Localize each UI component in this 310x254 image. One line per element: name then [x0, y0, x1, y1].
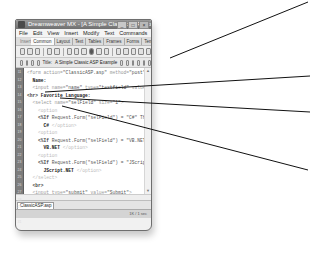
layer-icon[interactable] [54, 48, 59, 55]
line-number: 21 [16, 144, 23, 152]
scroll-down-arrow-icon[interactable]: ▼ [146, 189, 150, 193]
code-line: C# </option> [27, 122, 151, 130]
menu-modify[interactable]: Modify [83, 29, 99, 37]
app-logo-icon [18, 21, 25, 28]
code-token: "name" [66, 85, 83, 90]
menu-text[interactable]: Text [104, 29, 114, 37]
line-number: 14 [16, 92, 23, 100]
insert-tab-common[interactable]: Common [31, 38, 54, 45]
code-token: <input name= [33, 85, 66, 90]
insert-bar: Insert Common Layout Text Tables Frames … [16, 38, 151, 46]
editable-region-icon[interactable] [146, 48, 151, 55]
code-line: Name: [27, 77, 151, 85]
reference-icon[interactable] [137, 60, 140, 66]
navigation-bar-icon[interactable] [96, 48, 101, 55]
code-token: "1" [112, 100, 120, 105]
table-icon[interactable] [47, 48, 52, 55]
maximize-button[interactable]: □ [128, 21, 138, 29]
code-token: <option [38, 130, 57, 135]
insert-tab-templates[interactable]: Templates [142, 38, 151, 45]
insert-tab-frames[interactable]: Frames [104, 38, 124, 45]
code-editor[interactable]: 1112131415161718192021222324252627282930… [16, 68, 151, 194]
menu-edit[interactable]: Edit [33, 29, 42, 37]
code-token: <select name= [33, 100, 69, 105]
vertical-scrollbar[interactable]: ▲ ▼ [144, 68, 151, 194]
menu-insert[interactable]: Insert [64, 29, 78, 37]
code-line: <select name="selField" size="1"> [27, 99, 151, 107]
tag-chooser-icon[interactable] [131, 48, 136, 55]
insert-tab-text[interactable]: Text [73, 38, 86, 45]
code-token: <form action= [27, 70, 63, 75]
code-line: VB.NET </option> [27, 144, 151, 152]
code-line: </select> [27, 174, 151, 182]
code-token: Request.Form("selField") = "JScript.NET"… [52, 160, 151, 165]
line-number: 17 [16, 114, 23, 122]
design-view-icon[interactable] [31, 60, 34, 66]
code-token: method= [107, 70, 129, 75]
live-data-icon[interactable] [37, 60, 40, 66]
split-view-icon[interactable] [26, 60, 29, 66]
callout-line-title [170, 2, 308, 58]
code-token: Name: [33, 78, 47, 83]
code-token: Favorite Language: [41, 93, 91, 98]
line-number: 23 [16, 159, 23, 167]
menu-file[interactable]: File [19, 29, 28, 37]
code-token: </option> [49, 123, 77, 128]
code-token: > [129, 190, 132, 194]
scroll-up-arrow-icon[interactable]: ▲ [146, 69, 150, 73]
code-navigation-icon[interactable] [143, 60, 146, 66]
status-bar: 1K / 1 sec [16, 209, 151, 218]
close-button[interactable]: × [139, 21, 149, 29]
code-token: > [121, 100, 124, 105]
code-token: <br> [33, 183, 44, 188]
hyperlink-icon[interactable] [20, 48, 25, 55]
insert-tab-tables[interactable]: Tables [86, 38, 104, 45]
code-line: <br> [27, 182, 151, 190]
code-token: JScript.NET [44, 168, 74, 173]
code-token: "ClassicASP.asp" [63, 70, 107, 75]
line-number: 20 [16, 137, 23, 145]
line-number: 31 [16, 219, 23, 227]
title-input[interactable]: A Simple Classic ASP Example [55, 60, 117, 65]
named-anchor-icon[interactable] [35, 48, 40, 55]
line-number: 12 [16, 77, 23, 85]
document-toolbar: Title: A Simple Classic ASP Example [16, 58, 151, 68]
refresh-icon[interactable] [132, 60, 135, 66]
line-number: 15 [16, 99, 23, 107]
line-number: 28 [16, 197, 23, 205]
date-icon[interactable] [116, 48, 121, 55]
menu-view[interactable]: View [47, 29, 59, 37]
email-link-icon[interactable] [27, 48, 32, 55]
insert-bar-label: Insert [19, 38, 31, 45]
rollover-image-icon[interactable] [81, 48, 86, 55]
code-token: <%If [38, 138, 52, 143]
flash-icon[interactable] [89, 48, 94, 55]
code-token: VB.NET [44, 145, 61, 150]
menu-commands[interactable]: Commands [119, 29, 147, 37]
horizontal-rule-icon[interactable] [104, 48, 109, 55]
code-token: </option> [74, 168, 102, 173]
line-number: 18 [16, 122, 23, 130]
toolbar-separator [43, 48, 44, 56]
code-area[interactable]: <form action="ClassicASP.asp" method="po… [24, 68, 151, 194]
code-token: type= [82, 85, 99, 90]
template-icon[interactable] [138, 48, 143, 55]
view-options-icon[interactable] [148, 60, 151, 66]
code-token: size= [96, 100, 113, 105]
code-line: JScript.NET </option> [27, 167, 151, 175]
line-number: 24 [16, 167, 23, 175]
code-view-icon[interactable] [20, 60, 23, 66]
menu-bar: File Edit View Insert Modify Text Comman… [16, 29, 151, 38]
image-placeholder-icon[interactable] [74, 48, 79, 55]
insert-tab-forms[interactable]: Forms [125, 38, 143, 45]
image-icon[interactable] [67, 48, 72, 55]
code-token: <hr> [27, 93, 41, 98]
code-line: <%If Request.Form("selField") = "VB.NET"… [27, 137, 151, 145]
insert-tab-layout[interactable]: Layout [55, 38, 74, 45]
minimize-button[interactable]: _ [117, 21, 127, 29]
code-line: <option [27, 152, 151, 160]
comment-icon[interactable] [123, 48, 128, 55]
file-management-icon[interactable] [120, 60, 123, 66]
preview-browser-icon[interactable] [126, 60, 129, 66]
code-line: <option [27, 107, 151, 115]
